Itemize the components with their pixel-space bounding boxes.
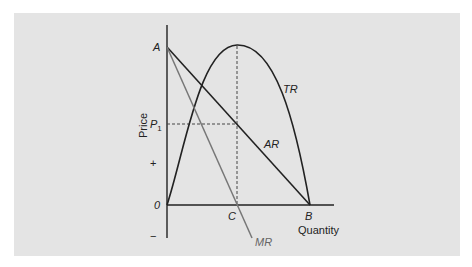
point-b-label: B — [305, 210, 312, 222]
mr-label: MR — [255, 236, 272, 248]
point-a-label: A — [152, 41, 160, 53]
quantity-axis-label: Quantity — [298, 224, 339, 236]
revenue-diagram: A P1 Price + 0 − C B Quantity MR TR AR — [0, 0, 472, 267]
origin-label: 0 — [154, 199, 161, 211]
mr-line — [167, 47, 252, 238]
point-c-label: C — [228, 210, 236, 222]
p1-label: P1 — [150, 118, 162, 133]
ar-label: AR — [263, 138, 279, 150]
price-axis-label: Price — [137, 113, 149, 138]
tr-label: TR — [283, 83, 298, 95]
minus-sign: − — [150, 230, 156, 242]
plus-sign: + — [150, 157, 156, 169]
